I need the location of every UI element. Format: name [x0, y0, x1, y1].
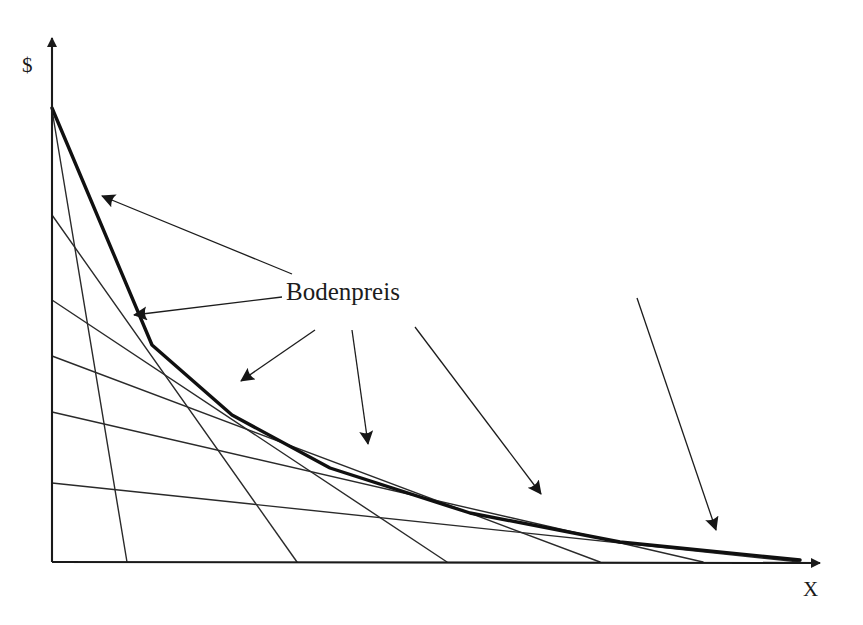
figure-background: [0, 0, 863, 625]
bodenpreis-label: Bodenpreis: [286, 278, 400, 305]
x-axis-line: [52, 562, 820, 563]
x-axis-label: X: [803, 577, 818, 601]
bodenpreis-figure: $ X Bodenpreis: [0, 0, 863, 625]
y-axis-label: $: [22, 53, 33, 77]
figure-canvas: $ X Bodenpreis: [0, 0, 863, 625]
